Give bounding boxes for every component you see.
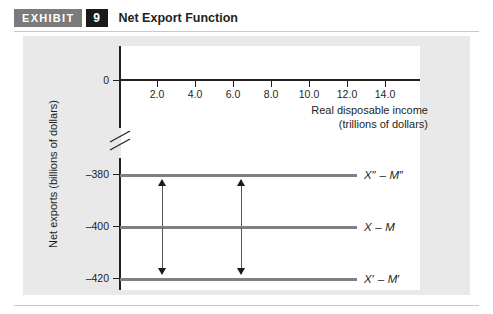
shift-arrow-down-right — [236, 228, 248, 274]
arrow-head — [237, 179, 245, 186]
series-label-separator: – — [372, 221, 385, 233]
arrow-shaft — [162, 180, 163, 226]
x-tick-label: 6.0 — [226, 88, 241, 100]
y-axis-title: Net exports (billions of dollars) — [47, 74, 59, 274]
exhibit-header: EXHIBIT 9 Net Export Function — [14, 9, 238, 27]
x-tick-label: 8.0 — [264, 88, 279, 100]
exhibit-number-badge: 9 — [86, 9, 108, 27]
series-label-text: X — [364, 221, 372, 233]
x-tick-mark — [385, 81, 386, 87]
x-tick-label: 12.0 — [337, 88, 357, 100]
series-label-text: X — [364, 273, 372, 285]
y-tick-mark — [113, 174, 119, 175]
shift-arrow-up-right — [236, 180, 248, 226]
y-tick-mark — [113, 226, 119, 227]
series-label-prime2: ″ — [399, 169, 403, 181]
y-tick-mark — [113, 278, 119, 279]
y-tick-label: –400 — [86, 220, 109, 232]
series-label-text2: M — [388, 273, 398, 285]
series-label-separator: – — [374, 273, 387, 285]
x-tick-mark — [195, 81, 196, 87]
series-line-x2-m2 — [120, 174, 357, 177]
y-tick-label: 0 — [103, 74, 109, 86]
exhibit-figure: EXHIBIT 9 Net Export Function 2.0 4.0 6.… — [0, 0, 493, 314]
series-label-x2-m2: X″ – M″ — [364, 169, 404, 181]
series-line-x1-m1 — [120, 278, 357, 281]
shift-arrow-down-left — [157, 228, 169, 274]
x-tick-mark — [157, 81, 158, 87]
x-axis-title-line1: Real disposable income — [200, 104, 428, 118]
bottom-divider — [14, 305, 479, 306]
x-axis-line — [119, 79, 420, 81]
series-label-text: X — [364, 169, 372, 181]
y-tick-label: –380 — [86, 168, 109, 180]
shift-arrow-up-left — [157, 180, 169, 226]
y-axis-line — [119, 46, 121, 290]
series-label-x1-m1: X′ – M′ — [364, 273, 400, 285]
y-tick-label: –420 — [86, 272, 109, 284]
series-label-prime2: ′ — [397, 273, 399, 285]
x-tick-label: 10.0 — [299, 88, 319, 100]
x-axis-title: Real disposable income (trillions of dol… — [200, 104, 428, 131]
arrow-head — [237, 268, 245, 275]
arrow-head — [158, 179, 166, 186]
series-label-x-m: X – M — [364, 221, 395, 233]
x-tick-mark — [233, 81, 234, 87]
header-divider — [14, 31, 479, 32]
x-tick-label: 2.0 — [150, 88, 165, 100]
x-tick-mark — [309, 81, 310, 87]
arrow-head — [158, 268, 166, 275]
series-label-separator: – — [376, 169, 389, 181]
x-tick-label: 14.0 — [375, 88, 395, 100]
exhibit-tag-badge: EXHIBIT — [14, 9, 82, 27]
x-tick-label: 4.0 — [188, 88, 203, 100]
x-tick-mark — [271, 81, 272, 87]
y-tick-mark — [113, 80, 119, 81]
series-label-text2: M — [390, 169, 400, 181]
arrow-shaft — [241, 180, 242, 226]
x-tick-mark — [347, 81, 348, 87]
exhibit-title: Net Export Function — [119, 9, 238, 27]
series-label-text2: M — [385, 221, 395, 233]
x-axis-title-line2: (trillions of dollars) — [200, 118, 428, 132]
